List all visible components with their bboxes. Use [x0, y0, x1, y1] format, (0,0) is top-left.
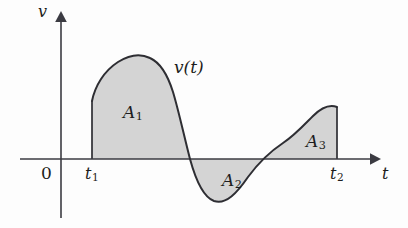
area-label-a3-subscript: 3: [318, 139, 326, 152]
v-axis-arrowhead-icon: [55, 11, 67, 22]
t-axis-label: t: [382, 166, 388, 182]
tick-label-t2-subscript: 2: [336, 171, 343, 183]
figure-canvas: v t 0 v(t) t1 t2 A1 A2 A3: [0, 0, 408, 228]
v-axis-label: v: [38, 4, 47, 20]
tick-label-t1-subscript: 1: [91, 171, 98, 183]
area-label-a3: A3: [306, 133, 326, 152]
area-label-a2-symbol: A: [222, 170, 234, 190]
tick-label-t2: t2: [330, 166, 344, 183]
curve-label-vt: v(t): [174, 59, 204, 76]
area-label-a1: A1: [123, 104, 143, 123]
t-axis-arrowhead-icon: [370, 153, 381, 165]
area-label-a3-symbol: A: [306, 131, 318, 151]
tick-label-t1: t1: [85, 166, 99, 183]
area-label-a2-subscript: 2: [234, 178, 242, 191]
area-label-a1-symbol: A: [123, 102, 135, 122]
area-label-a1-subscript: 1: [135, 110, 143, 123]
area-label-a2: A2: [222, 172, 242, 191]
origin-label: 0: [41, 165, 52, 182]
velocity-curve-svg: [0, 0, 408, 228]
